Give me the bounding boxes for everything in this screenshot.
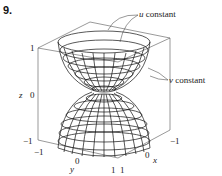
surface-mesh: [58, 31, 150, 157]
z-tick-0: 0: [30, 90, 35, 100]
v-constant-label: v constant: [169, 75, 205, 85]
u-constant-label: u constant: [139, 9, 176, 19]
y-tick-0: 0: [75, 156, 80, 166]
y-axis-label: y: [70, 164, 74, 174]
annotation-leaders: [108, 15, 168, 80]
z-axis-label: z: [19, 90, 23, 100]
z-tick-1: 1: [30, 43, 35, 53]
x-tick-0: 0: [145, 150, 150, 160]
x-axis-label: x: [153, 155, 157, 165]
x-tick-1: 1: [120, 165, 125, 175]
z-tick-neg1: −1: [23, 136, 33, 146]
x-tick-neg1: −1: [170, 136, 180, 146]
y-tick-neg1: −1: [34, 147, 44, 157]
y-tick-1: 1: [111, 165, 116, 175]
